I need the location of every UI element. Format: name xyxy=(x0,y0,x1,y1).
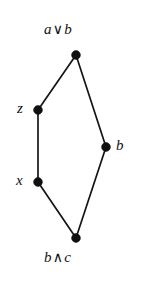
node-label-b: b xyxy=(116,138,124,153)
node-group xyxy=(34,51,111,243)
edge-top-b xyxy=(76,55,106,147)
edge-top-z xyxy=(38,55,76,110)
edge-b-bottom xyxy=(76,147,106,238)
node-label-x: x xyxy=(16,173,23,188)
node-label-bottom-right: c xyxy=(64,249,71,265)
node-z[interactable] xyxy=(34,106,43,115)
node-label-top: a∨b xyxy=(44,22,72,37)
edge-x-bottom xyxy=(38,182,76,238)
node-label-top-right: b xyxy=(64,21,72,37)
node-bottom[interactable] xyxy=(72,234,81,243)
meet-operator-icon: ∧ xyxy=(52,250,64,265)
node-label-z: z xyxy=(17,101,23,116)
hasse-diagram: a∨b z b x b∧c xyxy=(0,0,142,281)
node-label-bottom: b∧c xyxy=(44,250,71,265)
node-label-top-left: a xyxy=(44,21,52,37)
node-b[interactable] xyxy=(102,143,111,152)
join-operator-icon: ∨ xyxy=(52,22,64,37)
edge-group xyxy=(38,55,106,238)
node-top[interactable] xyxy=(72,51,81,60)
node-x[interactable] xyxy=(34,178,43,187)
node-label-bottom-left: b xyxy=(44,249,52,265)
